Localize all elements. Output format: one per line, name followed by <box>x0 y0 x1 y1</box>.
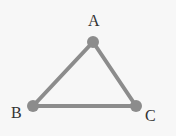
vertex-label-a: A <box>88 13 100 29</box>
vertex-a <box>87 36 99 48</box>
vertex-label-b: B <box>11 105 22 121</box>
edge-ab <box>33 42 93 106</box>
vertex-b <box>27 100 39 112</box>
triangle-diagram: A B C <box>0 0 176 136</box>
vertex-c <box>130 100 142 112</box>
vertex-label-c: C <box>145 108 156 124</box>
edge-ca <box>93 42 136 106</box>
